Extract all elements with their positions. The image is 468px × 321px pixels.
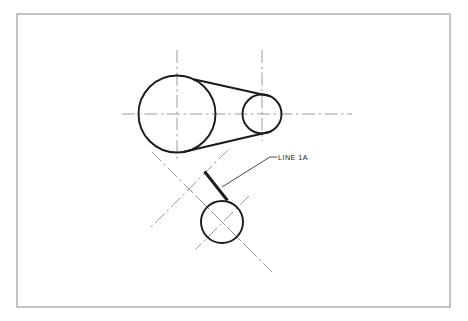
drawing-background	[0, 0, 468, 321]
annotation-label-line-1a: LINE 1A	[278, 153, 308, 162]
technical-drawing-page: LINE 1A	[0, 0, 468, 321]
technical-drawing-canvas: LINE 1A	[0, 0, 468, 321]
